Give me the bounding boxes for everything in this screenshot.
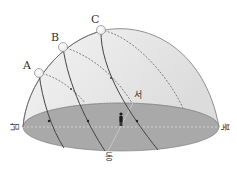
- direction-west-label: 서: [134, 91, 142, 100]
- sun-label-b: B: [51, 32, 59, 43]
- diagram-canvas: [0, 0, 237, 176]
- sun-label-c: C: [91, 14, 99, 25]
- sun-label-a: A: [23, 60, 31, 71]
- sun-b-icon: [59, 43, 68, 52]
- sun-a-icon: [35, 69, 44, 78]
- arrow-marker-b: [87, 120, 89, 122]
- sun-c-icon: [97, 26, 106, 35]
- arrow-marker-a: [48, 120, 50, 122]
- arrow-marker-c: [136, 120, 138, 122]
- celestial-sphere-diagram: A B C 남 북 동 서: [0, 0, 237, 176]
- direction-north-label: 북: [220, 123, 229, 131]
- direction-south-label: 남: [11, 123, 20, 131]
- direction-east-label: 동: [105, 153, 113, 162]
